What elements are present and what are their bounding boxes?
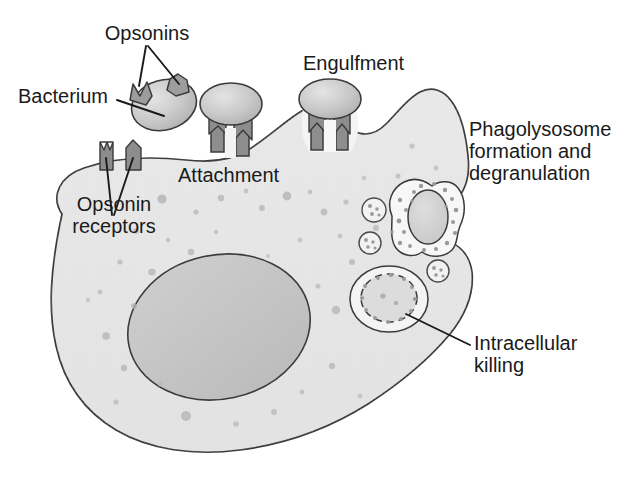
lysosome	[427, 260, 449, 282]
label-phagolysosome-line2: formation and	[469, 140, 591, 162]
bacterium-free	[125, 72, 202, 138]
engulfment-group	[299, 79, 361, 152]
opsonized-bacterium-group	[125, 72, 202, 138]
opsonin-left	[130, 82, 152, 105]
label-opsonins: Opsonins	[82, 22, 212, 44]
label-attachment: Attachment	[178, 164, 279, 186]
label-phagolysosome-line3: degranulation	[469, 162, 590, 184]
label-engulfment: Engulfment	[303, 52, 404, 74]
bacterium-in-phagosome	[408, 190, 448, 244]
opsonin-receptor-pentagon	[126, 140, 141, 170]
label-intracellular-killing-line2: killing	[474, 354, 524, 376]
intracellular-killing-group	[350, 266, 428, 332]
label-opsonin-receptors-line1: Opsonin	[50, 193, 178, 215]
label-bacterium: Bacterium	[18, 85, 128, 107]
lysosome	[362, 198, 386, 222]
label-phagolysosome-line1: Phagolysosome	[469, 118, 611, 140]
opsonin-right	[167, 74, 189, 96]
leader-opsonins-right	[148, 46, 179, 84]
bacterium-attached	[200, 83, 262, 125]
phagocytosis-diagram: Opsonins Bacterium Opsonin receptors Att…	[0, 0, 626, 482]
label-opsonin-receptors-line2: receptors	[50, 215, 178, 237]
lysosome	[359, 232, 381, 254]
bacterium-engulfed	[299, 79, 361, 119]
label-intracellular-killing-line1: Intracellular	[474, 332, 577, 354]
leader-opsonins-left	[139, 46, 146, 86]
